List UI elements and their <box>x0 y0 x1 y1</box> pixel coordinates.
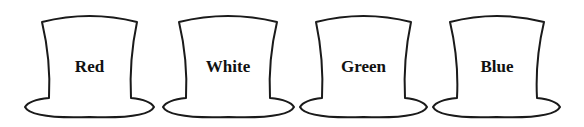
hat-label-blue: Blue <box>447 57 547 77</box>
hat-label-white: White <box>178 57 278 77</box>
hats-diagram: Red White Green Blue <box>0 0 584 127</box>
hat-label-green: Green <box>314 57 414 77</box>
hat-label-red: Red <box>40 57 140 77</box>
